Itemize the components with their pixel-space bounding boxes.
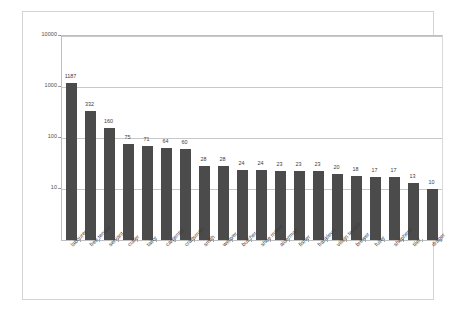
bar bbox=[123, 144, 134, 240]
bar-value-label: 18 bbox=[353, 167, 359, 172]
bar bbox=[161, 148, 172, 240]
y-axis-tick-label: 10000 bbox=[42, 32, 58, 37]
gridline bbox=[62, 138, 442, 139]
bar-value-label: 28 bbox=[220, 157, 226, 162]
bar bbox=[370, 177, 381, 240]
bar-value-label: 10 bbox=[429, 180, 435, 185]
bar-value-label: 75 bbox=[125, 135, 131, 140]
bar-value-label: 23 bbox=[296, 162, 302, 167]
bar-value-label: 23 bbox=[315, 162, 321, 167]
bar bbox=[142, 146, 153, 240]
y-axis-tick-label: 10 bbox=[51, 185, 57, 190]
bar-value-label: 60 bbox=[182, 140, 188, 145]
gridline bbox=[62, 189, 442, 190]
bar-value-label: 13 bbox=[410, 174, 416, 179]
bar bbox=[256, 170, 267, 240]
bar bbox=[104, 128, 115, 240]
bar-value-label: 28 bbox=[201, 157, 207, 162]
chart-frame: 100001000100101187labourer332free tenant… bbox=[22, 11, 434, 300]
plot-area bbox=[61, 35, 443, 241]
y-axis-tick-label: 100 bbox=[48, 134, 57, 139]
bar bbox=[218, 166, 229, 240]
bar bbox=[66, 83, 77, 240]
bar-value-label: 160 bbox=[104, 119, 113, 124]
bar-value-label: 1187 bbox=[65, 74, 77, 79]
gridline bbox=[62, 36, 442, 37]
bar-value-label: 17 bbox=[372, 168, 378, 173]
y-axis-tick-label: 1000 bbox=[45, 83, 57, 88]
bar-value-label: 23 bbox=[277, 162, 283, 167]
bar bbox=[313, 171, 324, 240]
bar bbox=[237, 170, 248, 240]
y-axis-tick-mark bbox=[58, 137, 61, 138]
y-axis-tick-mark bbox=[58, 35, 61, 36]
bar-value-label: 24 bbox=[258, 161, 264, 166]
bar-value-label: 71 bbox=[144, 137, 150, 142]
y-axis-tick-mark bbox=[58, 188, 61, 189]
bar-value-label: 20 bbox=[334, 165, 340, 170]
bar-value-label: 64 bbox=[163, 139, 169, 144]
bar bbox=[85, 111, 96, 240]
bar bbox=[389, 177, 400, 240]
bar-value-label: 17 bbox=[391, 168, 397, 173]
bar bbox=[427, 189, 438, 240]
gridline bbox=[62, 87, 442, 88]
bar-value-label: 332 bbox=[85, 102, 94, 107]
bar-value-label: 24 bbox=[239, 161, 245, 166]
y-axis-tick-mark bbox=[58, 86, 61, 87]
